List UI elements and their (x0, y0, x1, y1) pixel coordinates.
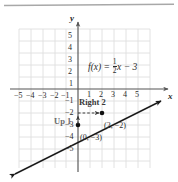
point-2-minus2 (100, 111, 105, 116)
y-tick-3: 3 (68, 56, 72, 64)
graph-figure: y x 5 4 3 2 1 −1 −2 −3 −4 −5 −5 −4 −3 −2… (0, 0, 178, 182)
function-equation-tail: x − 3 (117, 62, 137, 72)
x-tick-minus3: −3 (38, 92, 47, 100)
y-tick-5: 5 (68, 32, 72, 40)
annotation-right-2: Right 2 (79, 98, 106, 107)
x-tick-minus2: −2 (50, 92, 59, 100)
y-tick-minus5: −5 (65, 145, 74, 153)
y-tick-2: 2 (68, 68, 72, 76)
function-equation-label: f(x) = 12x − 3 (88, 58, 137, 74)
y-tick-minus4: −4 (65, 133, 74, 141)
x-axis-label: x (168, 92, 173, 101)
point-label-0-minus3: (0, −3) (80, 134, 102, 142)
function-equation-prefix: f(x) = (88, 62, 112, 72)
x-tick-minus5: −5 (14, 92, 23, 100)
slope-step-markers (78, 113, 99, 124)
y-tick-4: 4 (68, 44, 72, 52)
x-tick-5: 5 (135, 91, 139, 99)
y-axis-label: y (70, 14, 74, 23)
x-tick-3: 3 (111, 91, 115, 99)
point-label-2-minus2: (2, −2) (104, 122, 126, 130)
x-tick-minus4: −4 (26, 92, 35, 100)
top-divider-rule (4, 4, 174, 5)
annotation-up-1: Up 1 (54, 117, 71, 126)
y-tick-1: 1 (69, 80, 73, 88)
x-tick-4: 4 (123, 91, 127, 99)
x-tick-minus1: −1 (61, 92, 70, 100)
